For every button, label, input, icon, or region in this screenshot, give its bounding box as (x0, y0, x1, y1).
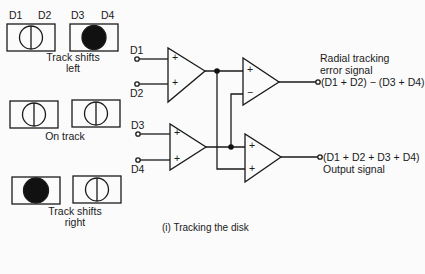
input-label-d2: D2 (130, 88, 143, 99)
caption-track-left-2: left (28, 63, 118, 74)
figure-caption: (i) Tracking the disk (162, 222, 249, 233)
amp4-sign-a: + (249, 140, 255, 151)
caption-on-track: On track (20, 131, 110, 142)
error-signal-title-1: Radial tracking (320, 53, 389, 64)
input-label-d3: D3 (131, 120, 144, 131)
amp3-sign-b: + (174, 153, 180, 164)
terminal-d2 (135, 82, 139, 86)
amp2-sign-b: − (247, 87, 253, 98)
terminal-error-out (316, 80, 320, 84)
amp4-sign-b: + (249, 163, 255, 174)
photodiode-pair-right-a (12, 177, 60, 204)
junction-dot-bottom (228, 144, 234, 150)
amp3-sign-a: + (174, 127, 180, 138)
terminal-d1 (135, 57, 139, 61)
error-signal-formula: (D1 + D2) − (D3 + D4) (321, 77, 425, 88)
amp1-sign-a: + (172, 52, 178, 63)
label-d3: D3 (71, 10, 84, 21)
photodiode-pair-left-a (7, 24, 55, 51)
input-label-d1: D1 (130, 45, 143, 56)
label-d2: D2 (38, 10, 51, 21)
photodiode-pair-left-b (70, 24, 118, 51)
input-label-d4: D4 (131, 164, 144, 175)
amp2-sign-a: + (247, 64, 253, 75)
junction-dot-top (214, 68, 220, 74)
photodiode-pair-right-b (73, 176, 121, 203)
terminal-d3 (136, 132, 140, 136)
caption-track-right-2: right (30, 217, 120, 228)
error-signal-title-2: error signal (320, 65, 373, 76)
label-d4: D4 (101, 10, 114, 21)
amp1-sign-b: + (172, 77, 178, 88)
photodiode-pair-on-a (10, 101, 58, 128)
sum-signal-label: Output signal (323, 164, 385, 175)
photodiode-pair-on-b (72, 100, 120, 127)
sum-signal-formula: (D1 + D2 + D3 + D4) (323, 152, 420, 163)
label-d1: D1 (9, 10, 22, 21)
terminal-d4 (136, 158, 140, 162)
terminal-sum-out (318, 155, 322, 159)
